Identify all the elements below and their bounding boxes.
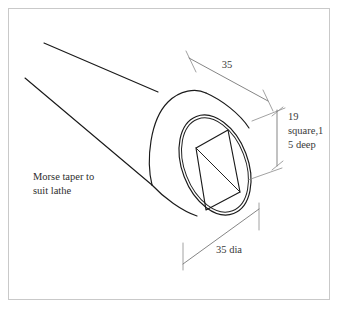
cylinder-top-silhouette-line — [206, 93, 249, 128]
socket-dim-leader-bottom — [248, 168, 282, 180]
socket-dimension-19-square-15-deep: 19 square,1 5 deep — [248, 107, 323, 180]
socket-dim-leader-top — [252, 108, 285, 121]
diameter-dim-label: 35 dia — [216, 244, 242, 255]
drawing-canvas: 35 19 square,1 5 deep 35 dia Morse taper… — [0, 0, 340, 310]
front-face-outer-ellipse — [166, 105, 265, 226]
morse-taper-note-line2: suit lathe — [33, 185, 72, 196]
socket-dim-label-line2: square,1 — [288, 125, 323, 136]
taper-lower-edge-line — [25, 78, 152, 185]
length-dimension-35: 35 — [186, 51, 273, 111]
length-dim-label: 35 — [222, 59, 233, 70]
cylinder-front-face — [166, 105, 265, 226]
diameter-dimension-35-dia: 35 dia — [183, 203, 259, 270]
cylinder-back-rim-arc — [149, 90, 206, 185]
square-socket — [196, 130, 240, 210]
taper-upper-edge-line — [44, 43, 158, 92]
socket-dim-label-line1: 19 — [288, 111, 299, 122]
length-dim-tick-right — [263, 90, 273, 111]
morse-taper-note: Morse taper to suit lathe — [33, 171, 94, 196]
diameter-dim-line — [183, 209, 259, 264]
morse-taper-shaft — [25, 43, 158, 185]
length-dim-tick-left — [186, 51, 196, 72]
socket-dim-label-line3: 5 deep — [288, 139, 316, 150]
morse-taper-note-line1: Morse taper to — [33, 171, 94, 182]
technical-drawing-page: 35 19 square,1 5 deep 35 dia Morse taper… — [0, 0, 340, 310]
socket-dim-tick-top — [272, 107, 283, 116]
